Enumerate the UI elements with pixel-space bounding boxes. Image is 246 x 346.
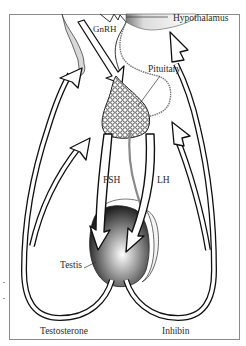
gnrh-label: GnRH: [93, 25, 117, 34]
testis-label: Testis: [60, 261, 82, 271]
fsh-arrow: [90, 134, 112, 250]
testosterone-label: Testosterone: [40, 327, 88, 337]
diagram-illustration: [0, 0, 246, 346]
pituitary-gland: [102, 76, 160, 138]
hypothalamus-label: Hypothalamus: [173, 14, 228, 24]
fsh-label: FSH: [103, 176, 120, 186]
edge-mark: [3, 282, 5, 283]
edge-mark: [3, 298, 5, 299]
pituitary-label: Pituitary: [148, 65, 181, 75]
lh-label: LH: [157, 176, 170, 186]
inhibin-label: Inhibin: [162, 327, 189, 337]
